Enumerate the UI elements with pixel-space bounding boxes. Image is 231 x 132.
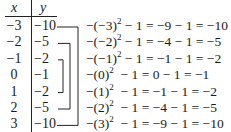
calc-base: −(−2) <box>86 34 117 49</box>
calculation-row: −(−3)2 − 1 = −9 − 1 = −10 <box>86 18 228 34</box>
calc-result: − 1 = −4 − 1 = −5 <box>121 34 221 49</box>
calc-base: −(0) <box>86 67 109 82</box>
calc-result: − 1 = −9 − 1 = −10 <box>121 18 227 33</box>
calculation-row: −(−2)2 − 1 = −4 − 1 = −5 <box>86 34 221 50</box>
calculation-row: −(3)2 − 1 = −9 − 1 = −10 <box>86 116 224 132</box>
bracket <box>58 60 63 93</box>
calc-result: − 1 = −4 − 1 = −5 <box>114 100 217 115</box>
calc-result: − 1 = −9 − 1 = −10 <box>114 116 224 131</box>
calc-result: − 1 = 0 − 1 = −1 <box>114 67 209 82</box>
calculation-row: −(2)2 − 1 = −4 − 1 = −5 <box>86 100 217 116</box>
calculation-row: −(1)2 − 1 = −1 − 1 = −2 <box>86 84 217 100</box>
calc-base: −(−3) <box>86 18 117 33</box>
calc-base: −(1) <box>86 84 109 99</box>
calculation-row: −(0)2 − 1 = 0 − 1 = −1 <box>86 67 209 83</box>
bracket <box>58 43 70 109</box>
bracket <box>57 27 78 125</box>
calc-result: − 1 = −1 − 1 = −2 <box>114 84 217 99</box>
calc-base: −(−1) <box>86 51 117 66</box>
calculation-row: −(−1)2 − 1 = −1 − 1 = −2 <box>86 51 221 67</box>
calc-base: −(3) <box>86 116 109 131</box>
calc-result: − 1 = −1 − 1 = −2 <box>121 51 221 66</box>
calc-base: −(2) <box>86 100 109 115</box>
